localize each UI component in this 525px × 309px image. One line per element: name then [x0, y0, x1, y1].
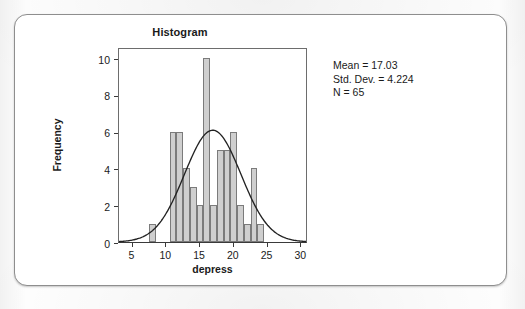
x-tick-mark: [267, 243, 268, 247]
histogram-bar: [203, 58, 210, 242]
stat-n: N = 65: [333, 86, 414, 100]
histogram-bar: [217, 150, 224, 242]
histogram-bar: [244, 224, 251, 242]
figure-card: Histogram Frequency 0246810 51015202530 …: [14, 14, 507, 286]
chart-title: Histogram: [15, 26, 345, 38]
histogram-bar: [237, 205, 244, 242]
x-tick-label: 25: [252, 249, 282, 261]
histogram-bar: [190, 187, 197, 242]
y-tick-label: 0: [84, 238, 110, 250]
y-tick-label: 4: [84, 164, 110, 176]
x-tick-mark: [199, 243, 200, 247]
stat-mean: Mean = 17.03: [333, 59, 414, 73]
histogram-bar: [230, 132, 237, 242]
histogram-bar: [224, 150, 231, 242]
x-tick-mark: [132, 243, 133, 247]
x-tick-label: 15: [184, 249, 214, 261]
histogram-bar: [183, 168, 190, 242]
stat-std-dev: Std. Dev. = 4.224: [333, 73, 414, 87]
histogram-bar: [170, 132, 177, 242]
histogram-bar: [210, 205, 217, 242]
statistics-annotation: Mean = 17.03 Std. Dev. = 4.224 N = 65: [333, 59, 414, 100]
histogram-chart: Histogram Frequency 0246810 51015202530 …: [15, 15, 508, 287]
histogram-bar: [176, 132, 183, 242]
x-tick-mark: [165, 243, 166, 247]
y-tick-label: 2: [84, 201, 110, 213]
histogram-bar: [251, 168, 258, 242]
x-axis: 51015202530: [118, 243, 307, 265]
histogram-bar: [149, 224, 156, 242]
x-tick-label: 20: [218, 249, 248, 261]
x-tick-label: 5: [117, 249, 147, 261]
x-tick-label: 10: [150, 249, 180, 261]
x-tick-mark: [300, 243, 301, 247]
y-tick-label: 6: [84, 127, 110, 139]
x-tick-label: 30: [285, 249, 315, 261]
histogram-bars: [119, 49, 306, 242]
y-tick-label: 10: [84, 54, 110, 66]
histogram-bar: [257, 224, 264, 242]
y-tick-label: 8: [84, 90, 110, 102]
plot-area: [118, 48, 307, 243]
screenshot-page: Histogram Frequency 0246810 51015202530 …: [0, 0, 525, 309]
y-axis: 0246810: [84, 48, 118, 243]
y-axis-title: Frequency: [51, 118, 63, 171]
x-tick-mark: [233, 243, 234, 247]
x-axis-title: depress: [118, 263, 307, 275]
histogram-bar: [197, 205, 204, 242]
